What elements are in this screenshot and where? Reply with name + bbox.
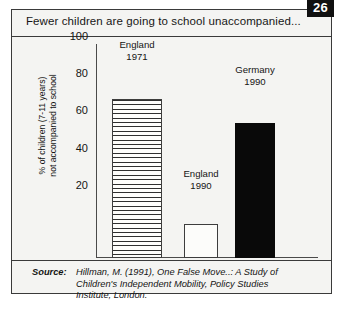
y-tick-label-80: 80 (56, 67, 88, 79)
bar-label-germany-1990: Germany 1990 (220, 64, 290, 87)
source-line-3: Institute, London. (76, 290, 326, 302)
bar-england-1990 (184, 224, 218, 258)
bar-germany-1990 (235, 123, 275, 258)
chart-figure: Fewer children are going to school unacc… (11, 9, 332, 294)
bar-label-country-2: England (167, 168, 235, 180)
bar-label-year-3: 1990 (220, 76, 290, 88)
bar-label-england-1990: England 1990 (167, 168, 235, 191)
page-title: Fewer children are going to school unacc… (26, 15, 301, 27)
source-label: Source: (32, 267, 67, 279)
y-axis-line (96, 44, 97, 258)
y-axis-title-line1: % of children (7-11 years) (37, 51, 48, 201)
y-axis-title: % of children (7-11 years) not accompani… (37, 51, 58, 201)
source-line-1: Hillman, M. (1991), One False Move..: A … (76, 267, 326, 279)
bar-label-country-3: Germany (220, 64, 290, 76)
y-tick-label-60: 60 (56, 104, 88, 116)
source-line-2: Children's Independent Mobility, Policy … (76, 279, 326, 291)
bar-label-year-2: 1990 (167, 180, 235, 192)
bar-label-country-1: England (102, 39, 172, 51)
source-citation: Hillman, M. (1991), One False Move..: A … (76, 267, 326, 302)
y-tick-label-40: 40 (56, 142, 88, 154)
source-text: Source: Hillman, M. (1991), One False Mo… (32, 267, 326, 302)
y-tick-label-20: 20 (56, 179, 88, 191)
bar-label-england-1971: England 1971 (102, 39, 172, 62)
plot-area: % of children (7-11 years) not accompani… (12, 37, 333, 259)
figure-number-badge: 26 (307, 0, 334, 17)
bar-england-1971 (112, 99, 162, 258)
y-tick-label-100: 100 (52, 30, 88, 42)
bar-label-year-1: 1971 (102, 51, 172, 63)
source-block: Source: Hillman, M. (1991), One False Mo… (12, 260, 331, 294)
